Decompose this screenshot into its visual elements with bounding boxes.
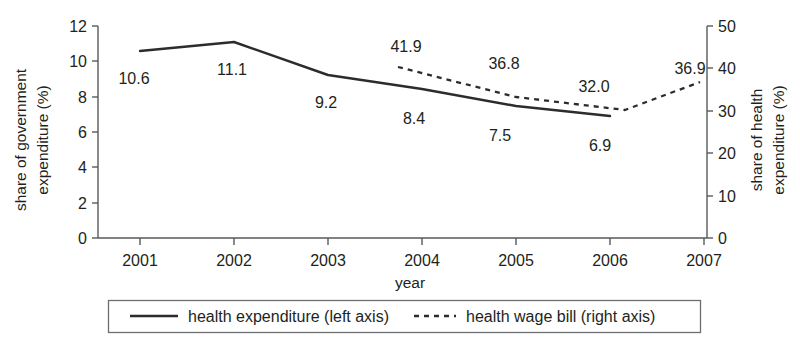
left-axis-title-line2: expenditure (%) xyxy=(34,85,51,194)
left-tick-label-10: 10 xyxy=(69,53,87,70)
right-tick-label-0: 0 xyxy=(718,230,727,247)
left-axis-title-line1: share of government xyxy=(12,68,29,211)
x-tick-label-2007: 2007 xyxy=(686,252,722,269)
line-chart: 12 10 8 6 4 2 0 share of government expe… xyxy=(0,0,800,339)
data-label-health-exp-2006: 6.9 xyxy=(589,137,611,154)
x-tick-label-2002: 2002 xyxy=(216,252,252,269)
data-label-wage-bill-2005: 36.8 xyxy=(488,55,519,72)
series-health-wage-bill: 41.9 36.8 32.0 36.9 xyxy=(390,38,705,110)
x-tick-label-2005: 2005 xyxy=(498,252,534,269)
x-axis: 2001 2002 2003 2004 2005 2006 2007 year xyxy=(98,238,722,291)
right-tick-label-40: 40 xyxy=(718,60,736,77)
left-tick-label-0: 0 xyxy=(78,230,87,247)
series-health-wage-bill-line xyxy=(398,67,700,110)
x-tick-label-2001: 2001 xyxy=(122,252,158,269)
data-label-health-exp-2003: 9.2 xyxy=(315,94,337,111)
chart-figure: 12 10 8 6 4 2 0 share of government expe… xyxy=(0,0,800,339)
data-label-wage-bill-2006: 32.0 xyxy=(578,78,609,95)
right-tick-label-20: 20 xyxy=(718,145,736,162)
data-label-health-exp-2002: 11.1 xyxy=(217,61,247,78)
chart-legend: health expenditure (left axis) health wa… xyxy=(109,301,701,333)
x-axis-title: year xyxy=(395,274,425,291)
left-tick-label-8: 8 xyxy=(78,89,87,106)
left-tick-label-2: 2 xyxy=(78,195,87,212)
right-tick-label-50: 50 xyxy=(718,18,736,35)
data-label-health-exp-2004: 8.4 xyxy=(403,110,425,127)
right-axis-title-line1: share of health xyxy=(748,89,765,192)
right-axis: 50 40 30 20 10 0 share of health expendi… xyxy=(707,18,787,247)
left-tick-label-12: 12 xyxy=(69,18,87,35)
left-tick-label-6: 6 xyxy=(78,124,87,141)
series-health-expenditure-line xyxy=(140,42,610,116)
right-axis-title-line2: expenditure (%) xyxy=(770,85,787,194)
left-tick-label-4: 4 xyxy=(78,159,87,176)
data-label-wage-bill-2007: 36.9 xyxy=(674,60,705,77)
x-tick-label-2006: 2006 xyxy=(592,252,628,269)
legend-label-health-expenditure: health expenditure (left axis) xyxy=(188,308,389,325)
right-tick-label-10: 10 xyxy=(718,188,736,205)
legend-label-health-wage-bill: health wage bill (right axis) xyxy=(466,308,655,325)
data-label-health-exp-2001: 10.6 xyxy=(118,70,149,87)
left-axis: 12 10 8 6 4 2 0 share of government expe… xyxy=(12,18,98,247)
data-label-wage-bill-2004: 41.9 xyxy=(390,38,421,55)
series-health-expenditure: 10.6 11.1 9.2 8.4 7.5 6.9 xyxy=(118,42,611,154)
x-tick-label-2004: 2004 xyxy=(404,252,440,269)
x-tick-label-2003: 2003 xyxy=(310,252,346,269)
data-label-health-exp-2005: 7.5 xyxy=(489,127,511,144)
right-tick-label-30: 30 xyxy=(718,103,736,120)
